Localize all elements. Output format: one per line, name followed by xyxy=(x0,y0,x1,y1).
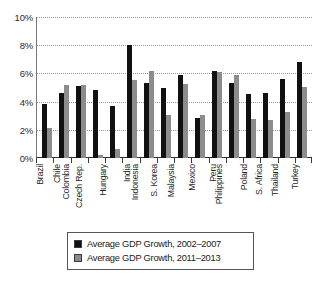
bar-series-2 xyxy=(251,119,256,158)
x-axis-category-label: Czech Rep. xyxy=(74,164,84,208)
x-axis-category-label: Colombia xyxy=(61,164,71,200)
legend-item-series-1: Average GDP Growth, 2002–2007 xyxy=(74,237,247,251)
bar-group xyxy=(123,17,140,158)
y-axis-tick-label: 6% xyxy=(20,68,33,79)
x-axis-category-label: Indonesia xyxy=(130,164,140,200)
bar-group xyxy=(157,17,174,158)
bar-group xyxy=(276,17,293,158)
bar-group xyxy=(191,17,208,158)
y-axis-tick-label: 8% xyxy=(20,40,33,51)
bar-group xyxy=(242,17,259,158)
x-axis-category-label: Turkey xyxy=(291,164,301,189)
bar-series-2 xyxy=(149,71,154,158)
x-axis-category-label: S. Korea xyxy=(149,164,159,197)
bar-group xyxy=(72,17,89,158)
bar-series-2 xyxy=(302,87,307,158)
bar-series-1 xyxy=(93,90,98,158)
x-axis-category-label: Hungary xyxy=(98,164,108,196)
legend-swatch-series-2 xyxy=(74,254,82,262)
x-axis-category-label: Philippines xyxy=(214,164,224,204)
legend-label-series-1: Average GDP Growth, 2002–2007 xyxy=(87,239,221,249)
bar-group xyxy=(174,17,191,158)
x-axis-label-cell: Hungary xyxy=(105,163,122,225)
x-axis-label-cell: Turkey xyxy=(295,163,312,225)
gdp-growth-bar-chart: 0%2%4%6%8%10% BrazilChileColombiaCzech R… xyxy=(0,0,321,283)
bar-group xyxy=(38,17,55,158)
y-axis-tick-label: 10% xyxy=(15,12,33,23)
bar-group xyxy=(293,17,310,158)
bar-series-2 xyxy=(64,85,69,158)
x-axis-category-label: Mexico xyxy=(187,164,197,191)
bars-layer xyxy=(36,17,312,158)
bar-group xyxy=(55,17,72,158)
bar-series-2 xyxy=(132,80,137,158)
legend-item-series-2: Average GDP Growth, 2011–2013 xyxy=(74,251,247,265)
x-axis-category-label: Poland xyxy=(239,164,249,190)
chart-legend: Average GDP Growth, 2002–2007 Average GD… xyxy=(67,232,254,270)
bar-group xyxy=(208,17,225,158)
bar-group xyxy=(259,17,276,158)
x-axis-category-label: Thailand xyxy=(270,164,280,196)
x-axis-category-label: Malaysia xyxy=(166,164,176,197)
bar-group xyxy=(89,17,106,158)
bar-group xyxy=(106,17,123,158)
bar-series-2 xyxy=(183,84,188,158)
y-axis-tick-label: 0% xyxy=(20,153,33,164)
bar-series-2 xyxy=(200,115,205,158)
bar-series-2 xyxy=(285,112,290,158)
bar-series-2 xyxy=(115,149,120,158)
x-axis-category-label: Brazil xyxy=(34,164,44,185)
y-axis-tick-label: 2% xyxy=(20,124,33,135)
x-axis-label-cell: Mexico xyxy=(191,163,208,225)
x-axis-category-label: S. Africa xyxy=(253,164,263,195)
bar-group xyxy=(140,17,157,158)
bar-series-2 xyxy=(81,85,86,158)
x-axis-label-cell: Brazil xyxy=(36,163,53,225)
bar-group xyxy=(225,17,242,158)
bar-series-2 xyxy=(234,75,239,158)
x-axis-labels: BrazilChileColombiaCzech Rep.HungaryIndi… xyxy=(36,163,312,225)
y-axis-labels: 0%2%4%6%8%10% xyxy=(0,17,33,158)
bar-series-2 xyxy=(166,115,171,158)
legend-swatch-series-1 xyxy=(74,240,82,248)
bar-series-2 xyxy=(217,72,222,158)
bar-series-2 xyxy=(47,128,52,158)
bar-series-2 xyxy=(268,120,273,158)
legend-label-series-2: Average GDP Growth, 2011–2013 xyxy=(87,253,220,263)
y-axis-tick-label: 4% xyxy=(20,96,33,107)
